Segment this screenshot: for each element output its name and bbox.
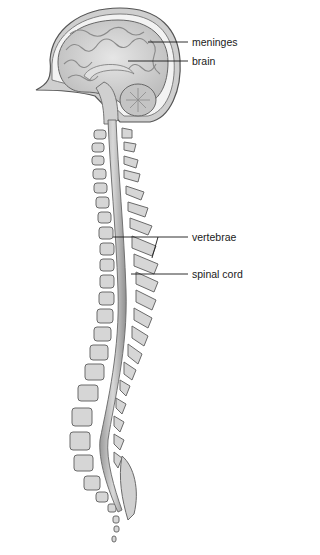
label-spinal-cord: spinal cord <box>192 268 243 280</box>
label-brain: brain <box>192 55 215 67</box>
brain-illustration <box>58 20 168 124</box>
label-meninges: meninges <box>192 36 238 48</box>
label-vertebrae: vertebrae <box>192 231 236 243</box>
